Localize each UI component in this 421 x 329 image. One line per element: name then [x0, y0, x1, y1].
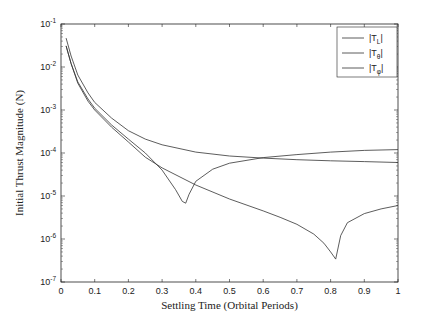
y-tick-label: 10-7	[40, 275, 56, 287]
x-axis-label: Settling Time (Orbital Periods)	[161, 299, 298, 312]
y-tick-label: 10-3	[40, 103, 56, 115]
thrust-vs-settling-time-chart: 00.10.20.30.40.50.60.70.80.91 10-110-210…	[0, 0, 421, 329]
x-tick-label: 1	[395, 286, 400, 296]
y-tick-label: 10-1	[40, 17, 56, 29]
legend-box	[337, 27, 397, 77]
x-tick-label: 0.5	[223, 286, 236, 296]
x-tick-label: 0.9	[358, 286, 371, 296]
y-tick-label: 10-5	[40, 189, 56, 201]
y-tick-label: 10-2	[40, 60, 56, 72]
x-tick-label: 0.1	[88, 286, 101, 296]
x-tick-label: 0.2	[122, 286, 135, 296]
x-tick-label: 0	[58, 286, 63, 296]
x-tick-label: 0.6	[257, 286, 270, 296]
x-tick-label: 0.7	[291, 286, 304, 296]
x-tick-label: 0.3	[156, 286, 169, 296]
legend: |TL||Tθ||Tφ|	[337, 27, 397, 77]
x-tick-label: 0.4	[190, 286, 203, 296]
x-tick-label: 0.8	[324, 286, 337, 296]
y-tick-label: 10-6	[40, 232, 56, 244]
y-tick-label: 10-4	[40, 146, 56, 158]
y-axis-label: Initial Thrust Magnitude (N)	[13, 90, 26, 216]
